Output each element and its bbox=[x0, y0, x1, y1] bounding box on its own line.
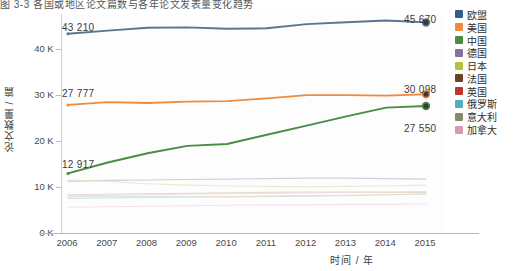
legend-swatch-icon bbox=[455, 62, 463, 70]
x-axis-tick-labels: 2006200720082009201020112012201320142015 bbox=[61, 237, 461, 251]
x-axis-tick: 2011 bbox=[256, 237, 276, 248]
figure-caption-text: 图 3-3 各国或地区论文篇数与各年论文发表量变化趋势 bbox=[0, 0, 430, 10]
x-axis-tick: 2006 bbox=[56, 237, 77, 248]
legend-swatch-icon bbox=[455, 87, 463, 95]
legend-item-加拿大[interactable]: 加拿大 bbox=[455, 123, 517, 136]
value-label-us-end: 30 098 bbox=[404, 84, 436, 95]
y-axis-tick: 40 K– bbox=[15, 43, 61, 54]
series-line-日本 bbox=[68, 180, 426, 187]
legend-swatch-icon bbox=[455, 10, 463, 18]
series-startpoint-中国 bbox=[67, 172, 70, 175]
legend-swatch-icon bbox=[455, 113, 463, 121]
legend-swatch-icon bbox=[455, 126, 463, 134]
legend-item-label: 加拿大 bbox=[467, 122, 498, 137]
x-axis-title: 时间 / 年 bbox=[330, 252, 374, 267]
x-axis-tick: 2010 bbox=[216, 237, 237, 248]
x-axis-tick: 2009 bbox=[176, 237, 197, 248]
series-endpoint-中国 bbox=[423, 103, 430, 110]
legend-swatch-icon bbox=[455, 36, 463, 44]
legend-swatch-icon bbox=[455, 74, 463, 82]
x-axis-tick: 2008 bbox=[136, 237, 157, 248]
series-canvas bbox=[62, 14, 444, 233]
x-axis-tick: 2015 bbox=[414, 237, 435, 248]
y-axis-tick: 30 K– bbox=[15, 89, 61, 100]
figure-container: 图 3-3 各国或地区论文篇数与各年论文发表量变化趋势 论文数量 / 篇 0 K… bbox=[0, 0, 517, 271]
value-label-eu-end: 45 670 bbox=[404, 14, 436, 25]
legend-swatch-icon bbox=[455, 49, 463, 57]
x-axis-tick: 2014 bbox=[375, 237, 396, 248]
plot-area bbox=[61, 14, 443, 233]
series-line-加拿大 bbox=[68, 204, 426, 207]
series-startpoint-美国 bbox=[67, 103, 70, 106]
series-line-欧盟 bbox=[68, 21, 426, 34]
value-label-cn-end: 27 550 bbox=[404, 123, 436, 134]
series-line-美国 bbox=[68, 94, 426, 105]
value-label-us-start: 27 777 bbox=[62, 88, 94, 99]
x-axis-tick: 2012 bbox=[295, 237, 316, 248]
value-label-cn-start: 12 917 bbox=[62, 159, 94, 170]
y-axis-tick: 10 K– bbox=[15, 181, 61, 192]
series-line-中国 bbox=[68, 106, 426, 173]
x-axis-tick: 2007 bbox=[96, 237, 117, 248]
legend-swatch-icon bbox=[455, 100, 463, 108]
series-line-德国 bbox=[68, 178, 426, 181]
legend: 欧盟美国中国德国日本法国英国俄罗斯意大利加拿大 bbox=[455, 8, 517, 136]
legend-swatch-icon bbox=[455, 23, 463, 31]
y-axis-tick: 20 K– bbox=[15, 135, 61, 146]
figure-caption: 图 3-3 各国或地区论文篇数与各年论文发表量变化趋势 bbox=[0, 0, 430, 10]
y-axis-tick-labels: 0 K–10 K–20 K–30 K–40 K– bbox=[8, 0, 61, 271]
value-label-eu-start: 43 210 bbox=[62, 22, 94, 33]
x-axis-tick: 2013 bbox=[335, 237, 356, 248]
x-axis-line bbox=[39, 233, 479, 234]
